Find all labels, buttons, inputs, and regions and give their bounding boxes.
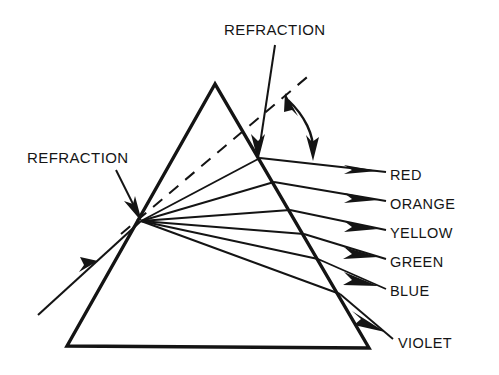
label-spectrum-green: GREEN <box>390 254 444 270</box>
label-spectrum-yellow: YELLOW <box>390 225 453 241</box>
label-refraction-exit: REFRACTION <box>224 21 326 38</box>
label-spectrum-violet: VIOLET <box>398 335 452 351</box>
canvas-background <box>0 0 499 375</box>
label-spectrum-blue: BLUE <box>390 283 429 299</box>
prism-dispersion-diagram: REFRACTION REFRACTION RED ORANGE YELLOW … <box>0 0 499 375</box>
label-spectrum-red: RED <box>390 167 422 183</box>
diagram-canvas: REFRACTION REFRACTION RED ORANGE YELLOW … <box>0 0 499 375</box>
label-refraction-entry: REFRACTION <box>27 149 129 166</box>
label-spectrum-orange: ORANGE <box>390 196 455 212</box>
